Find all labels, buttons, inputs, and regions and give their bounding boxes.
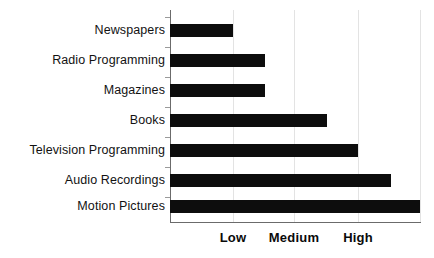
- bar-chart: Newspapers Radio Programming Magazines B…: [0, 0, 434, 258]
- bar-audio-recordings: [170, 174, 391, 187]
- category-tick: [165, 137, 170, 138]
- category-tick: [165, 107, 170, 108]
- category-tick: [165, 17, 170, 18]
- category-label-audio-recordings: Audio Recordings: [65, 174, 165, 187]
- bar-books: [170, 114, 327, 127]
- bar-magazines: [170, 84, 265, 97]
- xtick-label-medium: Medium: [269, 230, 319, 245]
- bar-newspapers: [170, 24, 233, 37]
- xtick-label-low: Low: [220, 230, 247, 245]
- gridline-high: [358, 10, 359, 222]
- plot-right-border: [420, 10, 421, 222]
- bar-television-programming: [170, 144, 358, 157]
- category-tick: [165, 77, 170, 78]
- category-label-newspapers: Newspapers: [95, 24, 165, 37]
- xtick-label-high: High: [343, 230, 373, 245]
- value-axis-line: [170, 222, 421, 223]
- category-label-magazines: Magazines: [104, 84, 165, 97]
- category-tick: [165, 167, 170, 168]
- bar-motion-pictures: [170, 200, 420, 213]
- category-label-radio-programming: Radio Programming: [52, 54, 165, 67]
- category-label-motion-pictures: Motion Pictures: [77, 200, 165, 213]
- bar-radio-programming: [170, 54, 265, 67]
- category-label-television-programming: Television Programming: [29, 144, 165, 157]
- category-tick: [165, 47, 170, 48]
- category-tick: [165, 197, 170, 198]
- category-label-books: Books: [130, 114, 165, 127]
